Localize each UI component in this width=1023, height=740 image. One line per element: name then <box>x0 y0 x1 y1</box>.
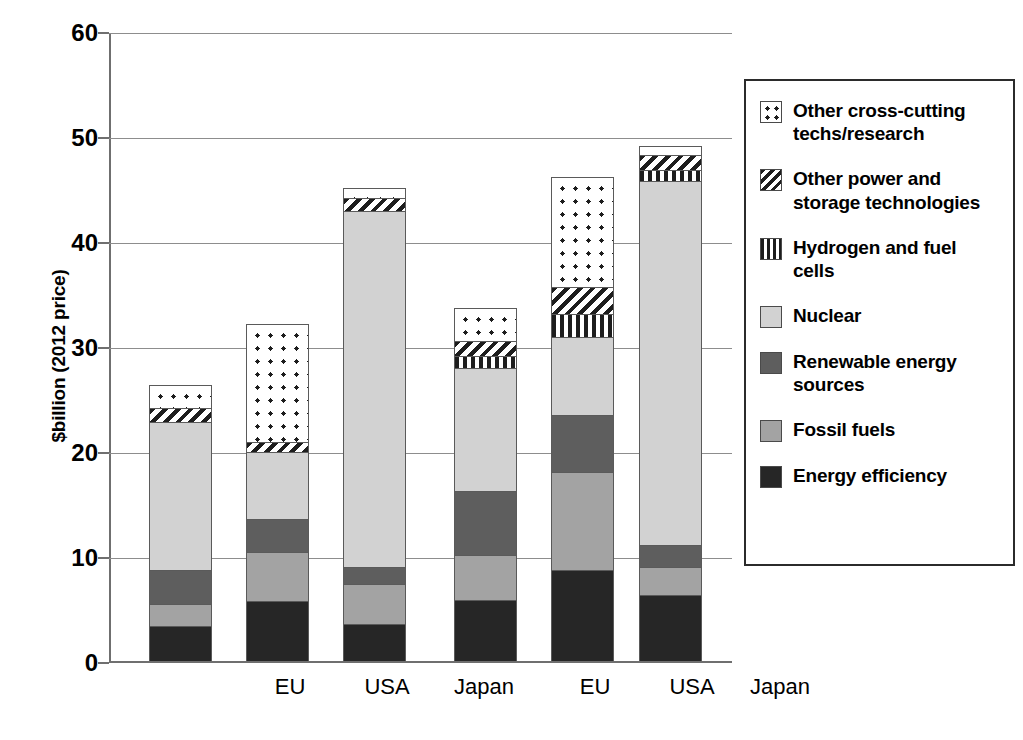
y-tick-mark <box>98 32 109 34</box>
bar-segment-renewables <box>552 416 613 473</box>
chart-page: $billion (2012 price) 6050403020100 EUUS… <box>0 0 1023 740</box>
legend-item-label: Other cross-cutting techs/research <box>793 99 1001 145</box>
bar-segment-fossil-fuels <box>455 556 516 601</box>
x-tick-label-usa: USA <box>364 674 409 700</box>
bar-segment-nuclear <box>640 182 701 545</box>
bar-segment-other-cross <box>247 325 308 443</box>
dotted-pattern-swatch-icon <box>760 101 782 123</box>
bar-segment-other-cross <box>344 189 405 200</box>
bar-segment-other-power <box>247 443 308 454</box>
bar-segment-nuclear <box>455 369 516 492</box>
y-tick-label: 20 <box>52 439 98 467</box>
bar-segment-other-cross <box>150 386 211 409</box>
y-tick-mark <box>98 137 109 139</box>
legend-item-label: Other power and storage technologies <box>793 167 1001 213</box>
bar-eu-1991-2000[interactable] <box>149 385 212 661</box>
y-axis-ticks: 6050403020100 <box>36 0 98 740</box>
bar-segment-nuclear <box>344 212 405 568</box>
bar-segment-other-cross <box>455 309 516 342</box>
y-tick-mark <box>98 452 109 454</box>
y-tick-label: 10 <box>52 544 98 572</box>
x-tick-label-eu: EU <box>275 674 306 700</box>
y-tick-label: 40 <box>52 229 98 257</box>
dark-gray-swatch-icon <box>760 352 782 374</box>
bar-segment-fossil-fuels <box>344 585 405 625</box>
y-tick-mark <box>98 347 109 349</box>
legend-item[interactable]: Fossil fuels <box>760 418 1001 442</box>
bar-segment-fossil-fuels <box>640 568 701 596</box>
legend: Other cross-cutting techs/researchOther … <box>744 79 1015 566</box>
x-tick-label-japan: Japan <box>750 674 810 700</box>
y-tick-label: 60 <box>52 19 98 47</box>
bar-segment-fossil-fuels <box>552 473 613 571</box>
gridline <box>109 138 732 139</box>
bar-segment-other-cross <box>552 178 613 288</box>
bar-segment-hydrogen <box>640 171 701 183</box>
bar-segment-energy-efficiency <box>455 601 516 661</box>
bar-segment-nuclear <box>552 338 613 417</box>
bar-segment-renewables <box>344 568 405 586</box>
bar-segment-fossil-fuels <box>247 553 308 602</box>
x-tick-label-usa: USA <box>669 674 714 700</box>
y-tick-mark <box>98 557 109 559</box>
light-gray-swatch-icon <box>760 420 782 442</box>
bar-segment-renewables <box>150 571 211 606</box>
legend-item[interactable]: Energy efficiency <box>760 464 1001 488</box>
legend-item-label: Hydrogen and fuel cells <box>793 236 1001 282</box>
bar-segment-energy-efficiency <box>640 596 701 661</box>
bar-segment-renewables <box>247 520 308 553</box>
legend-item[interactable]: Other cross-cutting techs/research <box>760 99 1001 145</box>
legend-item[interactable]: Hydrogen and fuel cells <box>760 236 1001 282</box>
y-tick-label: 50 <box>52 124 98 152</box>
bar-segment-other-cross <box>640 147 701 156</box>
bar-segment-energy-efficiency <box>150 627 211 661</box>
bar-segment-other-power <box>455 342 516 357</box>
bar-segment-renewables <box>455 492 516 556</box>
legend-item[interactable]: Renewable energy sources <box>760 350 1001 396</box>
legend-item-label: Energy efficiency <box>793 464 947 487</box>
bar-segment-energy-efficiency <box>344 625 405 661</box>
y-tick-label: 30 <box>52 334 98 362</box>
legend-item-label: Fossil fuels <box>793 418 895 441</box>
bar-segment-hydrogen <box>455 357 516 370</box>
legend-item[interactable]: Nuclear <box>760 304 1001 328</box>
bar-usa-2001-10[interactable] <box>551 177 614 661</box>
vertical-stripe-swatch-icon <box>760 238 782 260</box>
bar-segment-hydrogen <box>552 315 613 338</box>
bar-segment-other-power <box>640 156 701 171</box>
bar-segment-fossil-fuels <box>150 605 211 627</box>
plot-area <box>109 33 732 663</box>
bar-segment-energy-efficiency <box>552 571 613 661</box>
bar-usa-1991-2000[interactable] <box>246 324 309 661</box>
y-tick-mark <box>98 242 109 244</box>
bar-eu-2001-10[interactable] <box>454 308 517 661</box>
y-tick-label: 0 <box>52 649 98 677</box>
x-tick-label-japan: Japan <box>454 674 514 700</box>
bar-segment-renewables <box>640 546 701 568</box>
x-tick-label-eu: EU <box>580 674 611 700</box>
bar-segment-nuclear <box>247 453 308 520</box>
bar-segment-other-power <box>552 288 613 314</box>
diagonal-hatch-swatch-icon <box>760 169 782 191</box>
black-swatch-icon <box>760 466 782 488</box>
legend-item[interactable]: Other power and storage technologies <box>760 167 1001 213</box>
y-tick-mark <box>98 662 109 664</box>
bar-japan-2001-10[interactable] <box>639 146 702 661</box>
bar-segment-nuclear <box>150 423 211 571</box>
bar-segment-energy-efficiency <box>247 602 308 661</box>
x-axis-line <box>109 661 732 663</box>
legend-item-label: Renewable energy sources <box>793 350 1001 396</box>
bar-segment-other-power <box>150 409 211 423</box>
pale-gray-swatch-icon <box>760 306 782 328</box>
bar-segment-other-power <box>344 199 405 212</box>
legend-item-label: Nuclear <box>793 304 861 327</box>
bar-japan-1991-2000[interactable] <box>343 188 406 661</box>
gridline <box>109 33 732 34</box>
